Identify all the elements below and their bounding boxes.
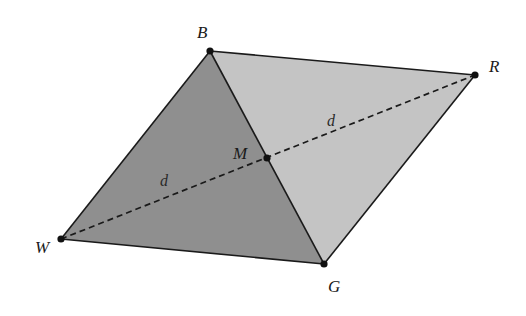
point-b	[206, 47, 213, 54]
point-w	[57, 235, 64, 242]
label-w: W	[35, 238, 51, 257]
segment-label-wm: d	[160, 172, 169, 189]
label-r: R	[488, 57, 500, 76]
label-b: B	[197, 23, 208, 42]
label-m: M	[232, 144, 248, 163]
point-g	[320, 260, 327, 267]
label-g: G	[328, 277, 340, 296]
point-r	[471, 71, 478, 78]
segment-label-mr: d	[327, 112, 336, 129]
parallelogram-diagram: B R G W M d d	[0, 0, 526, 316]
point-m	[263, 154, 270, 161]
